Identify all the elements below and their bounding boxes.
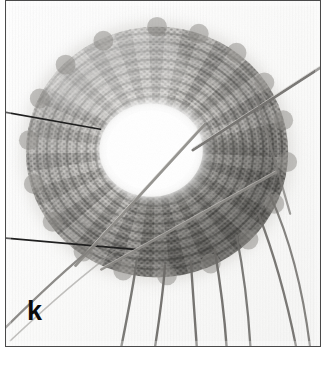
photo-grain (6, 1, 320, 346)
panel-label: k (27, 298, 42, 325)
knitted-textile-photograph (6, 1, 320, 346)
figure-panel: k (5, 0, 321, 347)
figure-root: k (0, 0, 331, 367)
